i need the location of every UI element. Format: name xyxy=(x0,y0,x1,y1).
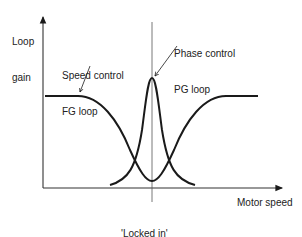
x-axis-label: Motor speed xyxy=(237,197,293,209)
locked-in-label-line1: 'Locked in' xyxy=(121,228,188,237)
locked-in-label: 'Locked in' speed & phase xyxy=(121,204,188,237)
speed-control-label-line2: FG loop xyxy=(62,106,124,118)
phase-control-label-line1: Phase control xyxy=(174,48,235,60)
phase-control-label: Phase control PG loop xyxy=(174,24,235,108)
speed-control-label-line1: Speed control xyxy=(62,70,124,82)
y-axis-label-line2: gain xyxy=(12,72,34,84)
y-axis-label-line1: Loop xyxy=(12,36,34,48)
phase-control-label-line2: PG loop xyxy=(174,84,235,96)
speed-control-label: Speed control FG loop xyxy=(62,46,124,130)
y-axis-label: Loop gain xyxy=(12,12,34,96)
